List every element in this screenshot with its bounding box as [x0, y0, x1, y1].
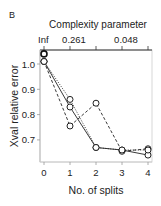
top-axis-title: Complexity parameter — [49, 19, 147, 30]
data-point-dotted — [119, 147, 125, 153]
top-tick-label: 0.261 — [62, 34, 86, 45]
data-point-solid — [67, 104, 73, 110]
y-tick-label: 0.9 — [22, 84, 35, 95]
data-point-dashed — [67, 123, 73, 129]
y-axis-label: Xval relative error — [8, 64, 20, 147]
y-tick-label: 0.8 — [22, 109, 35, 120]
series-line-solid — [44, 61, 148, 155]
y-tick-label: 1.0 — [22, 59, 35, 70]
x-axis-label: No. of splits — [69, 184, 124, 196]
data-point-dotted — [41, 58, 47, 64]
data-point-dotted — [67, 96, 73, 102]
x-tick-label: 1 — [67, 167, 72, 178]
data-point-dotted — [93, 144, 99, 150]
x-tick-label: 4 — [145, 167, 150, 178]
top-tick-label: 0.048 — [114, 34, 138, 45]
data-point-extra — [41, 51, 47, 57]
x-tick-label: 2 — [93, 167, 98, 178]
data-point-dashed — [93, 100, 99, 106]
chart: B Complexity parameter Inf0.2610.048 012… — [0, 0, 161, 206]
x-tick-label: 3 — [119, 167, 124, 178]
panel-label: B — [9, 10, 15, 20]
y-tick-label: 0.7 — [22, 134, 35, 145]
x-tick-label: 0 — [41, 167, 46, 178]
data-point-dotted — [145, 147, 151, 153]
top-tick-label: Inf — [38, 34, 49, 45]
